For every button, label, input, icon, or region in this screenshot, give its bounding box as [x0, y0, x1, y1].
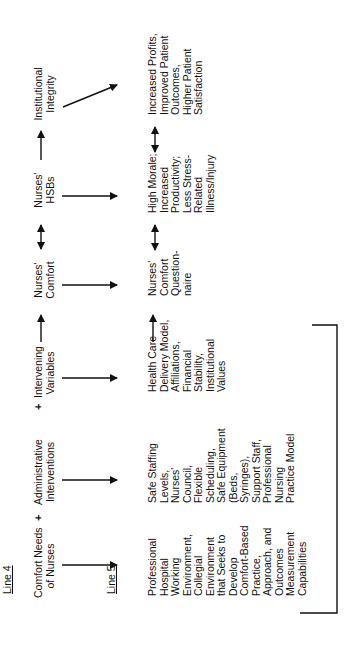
arrow-diagonal-icon — [63, 85, 117, 107]
diagram-arrows — [0, 0, 352, 660]
rotated-diagram-canvas: Line 4 Line 5 Comfort Needs of Nurses + … — [0, 0, 352, 660]
bracket-line — [300, 325, 337, 613]
